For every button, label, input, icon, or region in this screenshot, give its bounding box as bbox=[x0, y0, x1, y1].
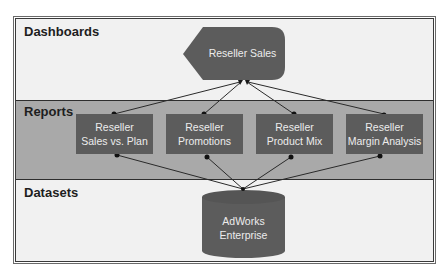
report-line1: Reseller bbox=[256, 120, 333, 134]
report-line2: Product Mix bbox=[256, 134, 333, 148]
report-line2: Promotions bbox=[166, 134, 243, 148]
dashboard-label: Reseller Sales bbox=[200, 46, 285, 60]
dataset-line1: AdWorks bbox=[202, 214, 285, 228]
report-margin-analysis[interactable]: Reseller Margin Analysis bbox=[346, 114, 423, 154]
report-line1: Reseller bbox=[76, 120, 153, 134]
report-promotions[interactable]: Reseller Promotions bbox=[166, 114, 243, 154]
dataset-line2: Enterprise bbox=[202, 228, 285, 242]
arrowheads-dashboard bbox=[238, 80, 250, 85]
report-product-mix[interactable]: Reseller Product Mix bbox=[256, 114, 333, 154]
dataset-to-report-arrows bbox=[117, 155, 380, 189]
report-sales-vs-plan[interactable]: Reseller Sales vs. Plan bbox=[76, 114, 153, 154]
dataset-label: AdWorks Enterprise bbox=[202, 214, 285, 242]
report-line2: Sales vs. Plan bbox=[76, 134, 153, 148]
report-line1: Reseller bbox=[346, 120, 423, 134]
report-line2: Margin Analysis bbox=[346, 134, 423, 148]
report-line1: Reseller bbox=[166, 120, 243, 134]
report-to-dashboard-arrows bbox=[114, 82, 384, 114]
